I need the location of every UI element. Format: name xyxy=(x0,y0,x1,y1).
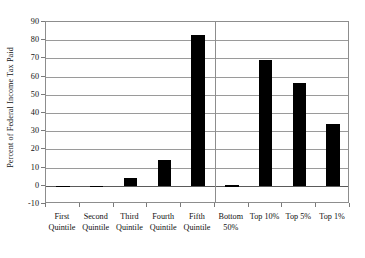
y-axis-tick-mark xyxy=(41,185,45,186)
bar-chart: Percent of Federal Income Tax Paid 90807… xyxy=(0,0,365,258)
y-axis-tick-label: 30 xyxy=(31,126,39,135)
bar xyxy=(293,83,307,186)
x-axis-tick-mark xyxy=(146,203,147,207)
x-axis-tick-mark xyxy=(281,203,282,207)
x-axis-tick-label-line1: Fifth xyxy=(189,212,205,221)
bar-series xyxy=(46,22,348,202)
x-axis-tick-mark xyxy=(315,203,316,207)
x-axis-tick-label: Bottom50% xyxy=(219,212,244,233)
y-axis-tick-label: 40 xyxy=(31,108,39,117)
x-axis-tick-label: Top 10% xyxy=(250,212,280,223)
y-axis-tick-label: 50 xyxy=(31,89,39,98)
y-axis-tick-mark xyxy=(41,130,45,131)
x-axis-tick-label: SecondQuintile xyxy=(82,212,109,233)
x-axis-tick-label: Top 5% xyxy=(286,212,312,223)
y-axis-tick-mark xyxy=(41,57,45,58)
y-axis-tick-mark xyxy=(41,76,45,77)
x-axis-tick-label-line1: Top 5% xyxy=(286,212,312,221)
x-axis-tick-label-line2: Quintile xyxy=(48,223,75,234)
bar xyxy=(191,35,205,186)
x-axis-tick-label-line1: Third xyxy=(120,212,138,221)
bar xyxy=(90,186,104,188)
y-axis-tick-label: 90 xyxy=(31,17,39,26)
y-axis-tick-label: 20 xyxy=(31,144,39,153)
x-axis-tick-label-line2: Quintile xyxy=(82,223,109,234)
x-axis-tick-labels: FirstQuintileSecondQuintileThirdQuintile… xyxy=(45,212,349,252)
x-axis-tick-label-line1: Top 1% xyxy=(319,212,345,221)
x-axis-tick-label: FirstQuintile xyxy=(48,212,75,233)
x-axis-tick-label-line1: First xyxy=(54,212,69,221)
y-axis-title-text: Percent of Federal Income Tax Paid xyxy=(6,47,15,168)
y-axis-tick-mark xyxy=(41,167,45,168)
x-axis-tick-mark xyxy=(248,203,249,207)
x-axis-tick-mark xyxy=(113,203,114,207)
x-axis-tick-label-line2: 50% xyxy=(219,223,244,234)
x-axis-tick-mark xyxy=(45,203,46,207)
bar xyxy=(326,124,340,186)
x-axis-tick-label-line1: Top 10% xyxy=(250,212,280,221)
y-axis-tick-label: -10 xyxy=(28,199,39,208)
bar xyxy=(158,160,172,186)
x-axis-tick-label-line2: Quintile xyxy=(184,223,211,234)
y-axis-tick-mark xyxy=(41,112,45,113)
bar xyxy=(259,60,273,186)
x-axis-tick-label: Top 1% xyxy=(319,212,345,223)
y-axis-tick-mark xyxy=(41,39,45,40)
y-axis-title: Percent of Federal Income Tax Paid xyxy=(0,0,20,214)
y-axis-tick-labels: 9080706050403020100-10 xyxy=(18,21,42,203)
x-axis-tick-label-line2: Quintile xyxy=(150,223,177,234)
x-axis-tick-mark xyxy=(214,203,215,207)
x-axis-tick-label-line1: Bottom xyxy=(219,212,244,221)
y-axis-tick-mark xyxy=(41,94,45,95)
y-axis-tick-label: 10 xyxy=(31,162,39,171)
bar xyxy=(56,186,70,188)
y-axis-tick-mark xyxy=(41,203,45,204)
y-axis-tick-label: 70 xyxy=(31,53,39,62)
y-axis-tick-label: 80 xyxy=(31,35,39,44)
x-axis-ticks xyxy=(45,203,349,208)
bar xyxy=(124,178,138,186)
x-axis-tick-label: ThirdQuintile xyxy=(116,212,143,233)
x-axis-tick-label: FifthQuintile xyxy=(184,212,211,233)
x-axis-tick-label-line2: Quintile xyxy=(116,223,143,234)
x-axis-tick-mark xyxy=(349,203,350,207)
plot-area xyxy=(45,21,349,203)
y-axis-tick-mark xyxy=(41,148,45,149)
x-axis-tick-label-line1: Fourth xyxy=(152,212,174,221)
y-axis-tick-mark xyxy=(41,21,45,22)
bar xyxy=(225,185,239,187)
x-axis-tick-label-line1: Second xyxy=(84,212,108,221)
x-axis-tick-mark xyxy=(180,203,181,207)
x-axis-tick-mark xyxy=(79,203,80,207)
x-axis-tick-label: FourthQuintile xyxy=(150,212,177,233)
y-axis-tick-label: 0 xyxy=(35,180,39,189)
y-axis-tick-label: 60 xyxy=(31,71,39,80)
